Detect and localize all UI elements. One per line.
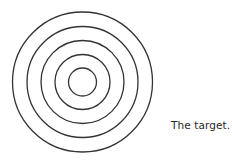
caption: The target. — [171, 119, 230, 131]
target-icon — [0, 0, 164, 160]
ring-1 — [13, 12, 153, 152]
ring-3 — [41, 41, 124, 124]
ring-5 — [69, 68, 97, 96]
ring-2 — [27, 27, 138, 138]
ring-4 — [55, 55, 110, 110]
